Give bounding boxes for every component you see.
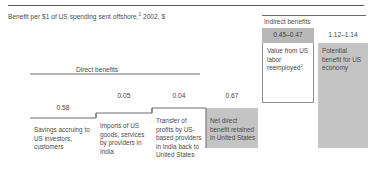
bar-labor-reemployed: Value from US labor reemployed2 [262,43,314,103]
value-indirect-box: 0.45–0.47 [262,28,314,43]
value-imports: 0.05 [96,92,152,99]
bar-potential-economy: Potential benefit for US economy [318,43,368,148]
label-labor-reemployed: Value from US labor reemployed2 [267,47,310,73]
label-potential-economy: Potential benefit for US economy [322,47,365,73]
label-profits: Transfer of profits by US-based provider… [156,117,202,160]
value-savings: 0.58 [30,104,96,111]
indirect-benefits-rule [262,15,366,16]
label-savings: Savings accruing to US investors, custom… [34,126,92,152]
value-total: 1.12–1.14 [318,31,368,38]
value-profits: 0.04 [152,92,206,99]
value-indirect: 0.45–0.47 [262,31,314,38]
chart-root: Benefit per $1 of US spending sent offsh… [0,0,372,183]
value-total-box: 1.12–1.14 [318,28,368,43]
direct-benefits-label: Direct benefits [76,65,118,74]
value-net-direct: 0.67 [206,92,258,99]
indirect-benefits-label: Indirect benefits [264,17,311,26]
label-net-direct: Net direct benefit retained in United St… [210,117,256,143]
label-labor-footnote-marker: 2 [300,63,302,68]
label-imports: Imports of US goods, services by provide… [100,122,148,156]
